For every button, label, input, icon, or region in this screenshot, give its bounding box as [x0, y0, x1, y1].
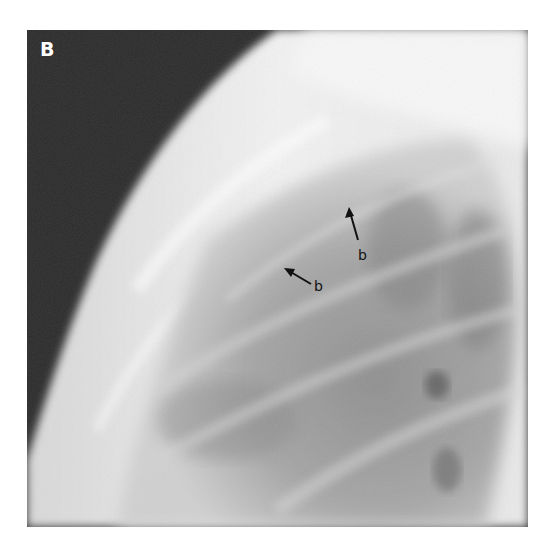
- panel-label: B: [40, 40, 54, 59]
- annotation-label-b-1: b: [358, 248, 367, 262]
- xray-image: [27, 30, 528, 527]
- radiograph-figure: B b b: [27, 30, 528, 527]
- annotation-label-b-2: b: [314, 279, 323, 293]
